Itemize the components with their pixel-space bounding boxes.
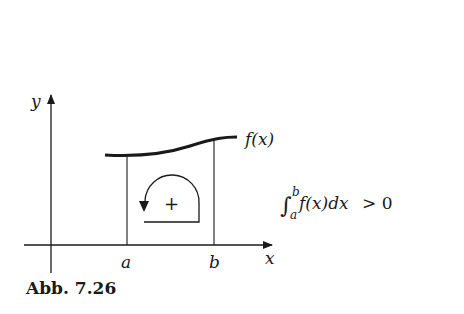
integral-diagram: y x a b f(x) + ∫ b a f(x)dx > 0: [0, 0, 464, 314]
upper-bound-label: b: [209, 252, 220, 272]
integral-lower-limit: a: [290, 208, 297, 222]
curve-label: f(x): [243, 129, 274, 149]
orientation-sign: +: [164, 193, 179, 214]
integrand: f(x)dx: [297, 193, 349, 213]
integral-formula: ∫ b a f(x)dx > 0: [280, 185, 392, 222]
lower-bound-label: a: [121, 252, 131, 272]
arrowhead-icon: [139, 201, 149, 212]
x-axis-label: x: [265, 248, 275, 268]
figure-caption: Abb. 7.26: [26, 278, 116, 298]
function-curve: [105, 137, 237, 156]
inequality: > 0: [362, 193, 392, 213]
y-axis-label: y: [30, 91, 41, 111]
